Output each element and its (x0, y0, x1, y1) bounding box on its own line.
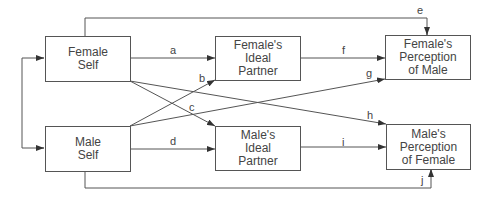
edge-label-a: a (170, 45, 176, 56)
node-label: Female's Ideal Partner (234, 39, 282, 78)
edge-label-b: b (199, 73, 205, 84)
edge-label-j: j (421, 175, 423, 186)
edge-label-c: c (189, 102, 195, 113)
node-male-perception-of-female: Male's Perception of Female (386, 124, 471, 170)
node-label: Male Self (75, 136, 101, 162)
edge-h (130, 81, 386, 124)
node-female-self: Female Self (45, 36, 131, 82)
edge-e (85, 18, 427, 36)
edge-label-f: f (342, 45, 345, 56)
node-label: Male's Perception of Female (400, 128, 457, 167)
edge-j (85, 169, 431, 188)
path-diagram: Female Self Male Self Female's Ideal Par… (0, 0, 489, 198)
node-female-ideal-partner: Female's Ideal Partner (215, 36, 301, 81)
edge-label-d: d (170, 136, 176, 147)
node-label: Female Self (68, 46, 108, 72)
edge-label-e: e (417, 5, 423, 16)
edge-label-h: h (367, 110, 373, 121)
self-correlation-line (22, 58, 44, 148)
edge-label-g: g (366, 68, 372, 79)
node-male-self: Male Self (45, 126, 131, 172)
edge-label-i: i (342, 137, 344, 148)
node-female-perception-of-male: Female's Perception of Male (385, 35, 471, 80)
node-label: Female's Perception of Male (399, 38, 456, 77)
node-male-ideal-partner: Male's Ideal Partner (215, 126, 301, 171)
node-label: Male's Ideal Partner (238, 129, 277, 168)
